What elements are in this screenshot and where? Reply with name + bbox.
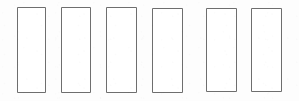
rectangle-3 xyxy=(107,8,137,93)
rectangle-row-drawing xyxy=(0,0,299,101)
rectangle-5 xyxy=(207,9,237,92)
rectangle-1 xyxy=(18,8,46,93)
rectangle-4 xyxy=(153,9,183,93)
rectangle-6 xyxy=(252,9,282,92)
rectangle-2 xyxy=(62,8,91,93)
figure-canvas xyxy=(0,0,299,101)
